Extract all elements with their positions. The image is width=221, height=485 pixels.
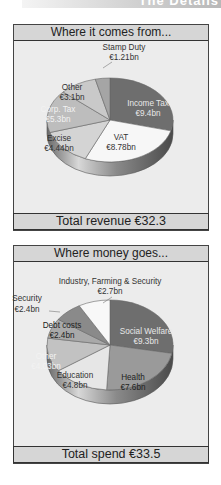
slice-value-social-welfare: €9.3bn <box>133 337 158 346</box>
slice-label-social-welfare: Social Welfare <box>120 327 173 336</box>
slice-label-other: Other <box>62 83 83 92</box>
slice-value-income-tax: €9.4bn <box>135 109 160 118</box>
slice-label-education: Education <box>57 371 94 380</box>
pie-charts: Income Tax€9.4bnVAT€8.78bnExcise€4.44bnC… <box>0 0 221 485</box>
slice-value-debt-costs: €2.4bn <box>49 331 74 340</box>
slice-label-security: Security <box>12 294 42 303</box>
slice-value-industry-farming-security: €2.7bn <box>97 287 122 296</box>
leader-line <box>103 62 112 68</box>
slice-label-health: Health <box>121 373 145 382</box>
slice-label-income-tax: Income Tax <box>127 99 169 108</box>
slice-value-health: €7.6bn <box>120 383 145 392</box>
slice-value-excise: €4.44bn <box>44 144 74 153</box>
leader-line <box>49 311 60 312</box>
slice-value-other: €4.03bn <box>31 362 61 371</box>
slice-label-stamp-duty: Stamp Duty <box>103 43 147 52</box>
slice-value-security: €2.4bn <box>14 305 39 314</box>
slice-label-excise: Excise <box>47 134 72 143</box>
slice-value-corp-tax: €5.3bn <box>45 115 70 124</box>
slice-value-other: €3.1bn <box>59 93 84 102</box>
slice-value-stamp-duty: €1.21bn <box>109 53 139 62</box>
slice-label-other: Other <box>36 352 57 361</box>
slice-value-vat: €8.78bn <box>106 143 136 152</box>
slice-label-corp-tax: Corp. Tax <box>41 105 76 114</box>
slice-label-vat: VAT <box>114 133 129 142</box>
slice-label-debt-costs: Debt costs <box>43 321 82 330</box>
slice-value-education: €4.8bn <box>62 381 87 390</box>
slice-label-industry-farming-security: Industry, Farming & Security <box>59 277 163 286</box>
